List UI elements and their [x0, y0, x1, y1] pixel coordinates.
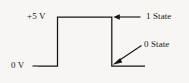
high-level-label: +5 V: [27, 12, 46, 21]
one-state-label: 1 State: [146, 12, 171, 21]
zero-state-arrow-shaft: [118, 46, 142, 62]
one-state-arrow-head: [113, 14, 120, 19]
voltage-waveform-figure: +5 V 0 V 1 State 0 State: [0, 0, 189, 83]
low-level-label: 0 V: [11, 61, 24, 70]
zero-state-arrow: [113, 46, 142, 65]
one-state-arrow: [113, 14, 140, 19]
pulse-waveform-path: [38, 17, 145, 66]
zero-state-label: 0 State: [144, 40, 169, 49]
